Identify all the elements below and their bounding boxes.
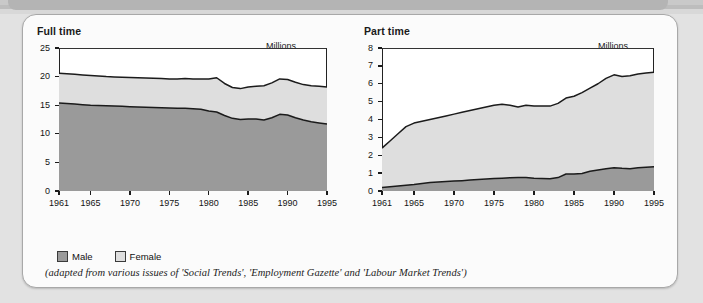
y-axis-tick	[55, 76, 59, 77]
y-axis-tick-label: 25	[28, 44, 50, 53]
y-axis-tick	[378, 155, 382, 156]
legend-label: Male	[72, 251, 93, 262]
legend-swatch-icon	[57, 251, 68, 262]
x-axis-tick	[533, 191, 534, 195]
x-axis-tick-label: 1975	[474, 199, 514, 208]
y-axis-tick	[378, 172, 382, 173]
y-axis-tick-label: 2	[351, 151, 373, 160]
x-axis-tick	[58, 191, 59, 195]
y-axis-tick-label: 15	[28, 101, 50, 110]
chart-plot-svg	[382, 48, 654, 191]
x-axis-tick-label: 1995	[307, 199, 347, 208]
chart-plot-svg	[59, 48, 327, 191]
x-axis-tick	[287, 191, 288, 195]
chart-title-full-time: Full time	[37, 25, 81, 37]
x-axis-tick-label: 1965	[394, 199, 434, 208]
legend-item-female: Female	[115, 251, 162, 262]
y-axis-tick	[55, 105, 59, 106]
y-axis-tick-label: 0	[351, 187, 373, 196]
y-axis-tick-label: 0	[28, 187, 50, 196]
charts-container: Full time Millions 051015202519611965197…	[23, 15, 677, 240]
x-axis-tick-label: 1965	[71, 199, 111, 208]
legend-item-male: Male	[57, 251, 93, 262]
legend-swatch-icon	[115, 251, 126, 262]
chart-legend: MaleFemale	[57, 251, 161, 262]
x-axis-tick	[169, 191, 170, 195]
x-axis-tick	[90, 191, 91, 195]
plot-area-full-time	[59, 48, 327, 191]
area-series-male	[59, 103, 327, 191]
x-axis-tick	[247, 191, 248, 195]
x-axis-tick-label: 1995	[634, 199, 674, 208]
y-axis-tick-label: 20	[28, 72, 50, 81]
x-axis-tick	[653, 191, 654, 195]
figure-caption: (adapted from various issues of 'Social …	[45, 267, 655, 278]
y-axis-tick	[55, 47, 59, 48]
y-axis-tick-label: 5	[351, 97, 373, 106]
y-axis-tick-label: 4	[351, 115, 373, 124]
y-axis-tick-label: 10	[28, 129, 50, 138]
y-axis-tick	[378, 119, 382, 120]
y-axis-tick-label: 3	[351, 133, 373, 142]
x-axis-tick	[613, 191, 614, 195]
x-axis-tick	[326, 191, 327, 195]
chart-title-part-time: Part time	[364, 25, 410, 37]
x-axis-tick	[381, 191, 382, 195]
x-axis-tick	[129, 191, 130, 195]
legend-label: Female	[130, 251, 162, 262]
y-axis-tick	[55, 133, 59, 134]
x-axis-tick	[453, 191, 454, 195]
x-axis-tick	[208, 191, 209, 195]
x-axis-tick-label: 1970	[110, 199, 150, 208]
x-axis-tick-label: 1980	[189, 199, 229, 208]
x-axis-tick-label: 1990	[594, 199, 634, 208]
x-axis-tick-label: 1970	[434, 199, 474, 208]
y-axis-tick	[378, 137, 382, 138]
y-axis-tick-label: 6	[351, 79, 373, 88]
figure-card: Full time Millions 051015202519611965197…	[22, 14, 678, 288]
y-axis-tick-label: 7	[351, 61, 373, 70]
y-axis-tick-label: 5	[28, 158, 50, 167]
x-axis-tick-label: 1985	[554, 199, 594, 208]
y-axis-tick	[55, 162, 59, 163]
x-axis-tick	[413, 191, 414, 195]
x-axis-tick	[573, 191, 574, 195]
y-axis-tick-label: 1	[351, 169, 373, 178]
chart-panel-full-time: Full time Millions 051015202519611965197…	[23, 15, 350, 240]
x-axis-tick-label: 1990	[268, 199, 308, 208]
y-axis-tick	[378, 47, 382, 48]
x-axis-tick-label: 1985	[228, 199, 268, 208]
x-axis-tick-label: 1980	[514, 199, 554, 208]
x-axis-tick-label: 1975	[149, 199, 189, 208]
chart-panel-part-time: Part time Millions 012345678196119651970…	[350, 15, 677, 240]
plot-area-part-time	[382, 48, 654, 191]
y-axis-tick-label: 8	[351, 44, 373, 53]
x-axis-tick	[493, 191, 494, 195]
y-axis-tick	[378, 83, 382, 84]
y-axis-tick	[378, 65, 382, 66]
page-top-band	[8, 0, 668, 10]
y-axis-tick	[378, 101, 382, 102]
